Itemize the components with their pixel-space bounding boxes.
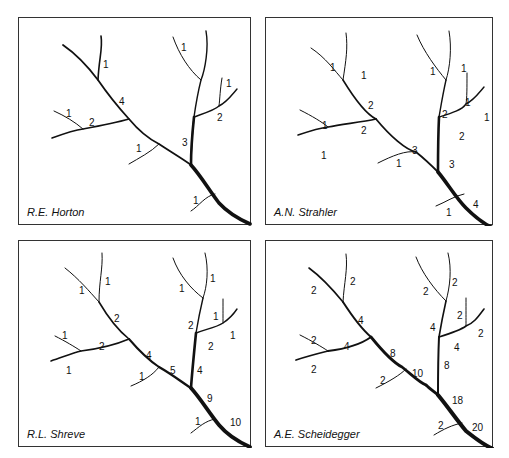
panel-caption: A.N. Strahler: [274, 206, 337, 218]
order-label: 2: [114, 314, 120, 324]
order-label: 8: [390, 349, 396, 359]
order-label: 4: [473, 200, 479, 210]
order-label: 1: [139, 372, 145, 382]
panel-scheidegger: 2 2 4 2 4 2 8 2 10 2 2 4 2 2 4 8 18 2 20…: [265, 240, 493, 447]
order-label: 8: [444, 361, 450, 371]
order-label: 1: [213, 312, 219, 322]
order-label: 4: [358, 316, 364, 326]
order-label: 4: [146, 351, 152, 361]
order-label: 1: [103, 60, 109, 70]
order-label: 2: [89, 118, 95, 128]
order-label: 1: [193, 196, 199, 206]
order-label: 1: [484, 113, 490, 123]
order-label: 18: [452, 396, 463, 406]
order-label: 1: [179, 284, 185, 294]
order-label: 1: [465, 98, 471, 108]
order-label: 1: [226, 79, 232, 89]
order-label: 2: [438, 421, 444, 431]
order-label: 9: [207, 394, 213, 404]
order-label: 3: [449, 160, 455, 170]
order-label: 4: [119, 97, 125, 107]
order-label: 1: [461, 64, 467, 74]
order-label: 2: [311, 286, 317, 296]
order-label: 4: [197, 366, 203, 376]
order-label: 2: [478, 329, 484, 339]
order-label: 1: [66, 366, 72, 376]
order-label: 1: [181, 43, 187, 53]
order-label: 5: [170, 366, 176, 376]
order-label: 3: [182, 138, 188, 148]
order-label: 2: [361, 126, 367, 136]
order-label: 10: [230, 418, 241, 428]
order-label: 1: [62, 331, 68, 341]
order-label: 1: [66, 109, 72, 119]
order-label: 2: [452, 278, 458, 288]
order-label: 1: [430, 67, 436, 77]
order-label: 3: [412, 146, 418, 156]
order-label: 4: [344, 342, 350, 352]
order-label: 1: [361, 71, 367, 81]
panel-strahler: 1 1 2 1 2 1 3 1 1 1 2 1 1 2 3 1 4 A.N. S…: [265, 17, 493, 225]
order-label: 4: [430, 323, 436, 333]
order-label: 1: [446, 208, 452, 218]
order-label: 20: [472, 423, 483, 433]
order-label: 2: [311, 336, 317, 346]
panel-caption: R.E. Horton: [27, 206, 84, 218]
order-label: 1: [396, 159, 402, 169]
panel-caption: R.L. Shreve: [27, 428, 85, 440]
order-label: 1: [210, 274, 216, 284]
order-label: 2: [208, 342, 214, 352]
order-label: 1: [105, 277, 111, 287]
order-label: 2: [99, 342, 105, 352]
order-label: 2: [423, 287, 429, 297]
order-label: 2: [380, 376, 386, 386]
order-label: 1: [79, 286, 85, 296]
order-label: 10: [412, 369, 423, 379]
order-label: 4: [454, 343, 460, 353]
order-label: 2: [442, 110, 448, 120]
order-label: 1: [195, 417, 201, 427]
panel-caption: A.E. Scheidegger: [274, 428, 360, 440]
order-label: 2: [311, 365, 317, 375]
panel-horton: 1 4 1 2 1 3 1 1 2 1 R.E. Horton: [18, 17, 251, 225]
order-label: 1: [230, 331, 236, 341]
panel-shreve: 1 1 2 1 2 1 4 1 5 1 1 2 1 1 2 4 9 1 10 R…: [18, 240, 251, 447]
stream-network-shreve: [19, 241, 252, 448]
order-label: 2: [217, 113, 223, 123]
stream-network-strahler: [266, 18, 494, 226]
order-label: 2: [457, 311, 463, 321]
order-label: 2: [459, 132, 465, 142]
order-label: 1: [322, 121, 328, 131]
order-label: 1: [136, 144, 142, 154]
order-label: 2: [350, 277, 356, 287]
order-label: 2: [188, 321, 194, 331]
order-label: 1: [330, 63, 336, 73]
order-label: 2: [368, 101, 374, 111]
order-label: 1: [321, 151, 327, 161]
